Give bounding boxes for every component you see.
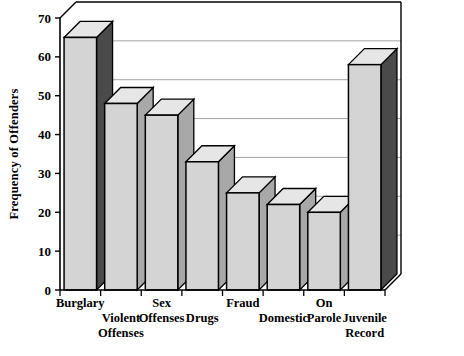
category-labels: BurglaryViolentOffensesSexOffensesDrugsF…	[56, 296, 387, 340]
category-label-line: Domestic	[259, 311, 309, 325]
y-axis-title: Frequency of Offenders	[7, 88, 21, 219]
bar-front-face	[64, 37, 97, 290]
y-tick-label: 10	[38, 244, 51, 259]
category-label: Burglary	[56, 296, 105, 310]
category-label-line: Burglary	[56, 296, 105, 310]
bar-front-face	[227, 193, 260, 290]
y-tick-label: 20	[38, 205, 51, 220]
category-label-line: On	[316, 296, 333, 310]
chart-canvas: 010203040506070Frequency of OffendersBur…	[0, 0, 464, 356]
category-label: OnParole	[307, 296, 342, 325]
category-label-line: Parole	[307, 311, 342, 325]
y-tick-label: 70	[38, 11, 51, 26]
bar[interactable]	[348, 49, 397, 290]
y-tick-label: 60	[38, 49, 51, 64]
category-label: Domestic	[259, 311, 309, 325]
bar-side-face	[381, 49, 397, 290]
category-label: SexOffenses	[139, 296, 185, 325]
category-label: JuvenileRecord	[342, 311, 387, 340]
category-label-line: Sex	[152, 296, 172, 310]
category-label-line: Juvenile	[342, 311, 387, 325]
bar-front-face	[186, 162, 219, 290]
category-label-line: Record	[345, 326, 384, 340]
y-tick-label: 30	[38, 166, 51, 181]
bar-front-face	[308, 212, 341, 290]
bar-front-face	[267, 205, 300, 290]
category-label: ViolentOffenses	[98, 311, 144, 340]
category-label: Fraud	[226, 296, 259, 310]
category-label-line: Drugs	[186, 311, 219, 325]
category-label: Drugs	[186, 311, 219, 325]
category-label-line: Violent	[102, 311, 141, 325]
bar-chart: 010203040506070Frequency of OffendersBur…	[0, 0, 464, 356]
category-label-line: Offenses	[139, 311, 185, 325]
category-label-line: Offenses	[98, 326, 144, 340]
y-tick-label: 0	[45, 283, 52, 298]
bar-front-face	[348, 65, 381, 290]
x-axis-ticks	[60, 290, 385, 296]
y-tick-label: 40	[38, 127, 51, 142]
category-label-line: Fraud	[226, 296, 259, 310]
y-tick-label: 50	[38, 88, 51, 103]
depth-line-top-left	[60, 2, 76, 18]
y-axis-ticks: 010203040506070	[38, 11, 60, 298]
bar-front-face	[145, 115, 178, 290]
bar-front-face	[105, 103, 138, 290]
